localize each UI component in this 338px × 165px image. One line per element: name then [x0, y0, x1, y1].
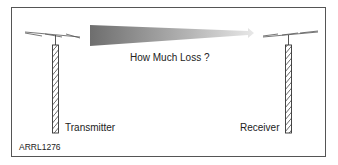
- propagation-diagram: [0, 0, 338, 165]
- loss-question-label: How Much Loss ?: [130, 52, 209, 63]
- receiver-label: Receiver: [240, 122, 279, 133]
- loss-arrow-icon: [90, 25, 254, 46]
- figure-code: ARRL1276: [19, 142, 61, 152]
- receiver-antenna-icon: [263, 31, 318, 133]
- transmitter-label: Transmitter: [65, 122, 115, 133]
- transmitter-antenna-icon: [25, 32, 80, 133]
